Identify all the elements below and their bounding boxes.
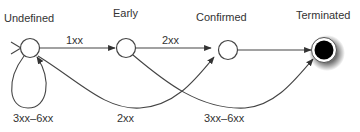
edge-self-loop <box>12 56 46 108</box>
edge-label-2xx: 2xx <box>162 34 180 46</box>
state-node-early <box>117 39 136 58</box>
state-node-terminated <box>315 41 334 60</box>
edge-label-1xx: 1xx <box>66 34 84 46</box>
edge-early-terminated <box>133 55 313 108</box>
state-label-undefined: Undefined <box>4 12 54 24</box>
edge-label-bottom-3xx-6xx: 3xx–6xx <box>204 112 245 124</box>
state-node-confirmed <box>219 41 238 60</box>
edge-label-bottom-2xx: 2xx <box>117 112 135 124</box>
initial-marker <box>11 42 21 54</box>
state-node-undefined <box>21 39 40 58</box>
state-label-terminated: Terminated <box>296 9 350 21</box>
edge-undefined-confirmed <box>38 56 214 108</box>
state-diagram: Undefined Early Confirmed Terminated 1xx… <box>0 0 360 132</box>
state-label-confirmed: Confirmed <box>196 11 247 23</box>
edge-label-self-loop: 3xx–6xx <box>13 112 54 124</box>
state-label-early: Early <box>113 7 139 19</box>
